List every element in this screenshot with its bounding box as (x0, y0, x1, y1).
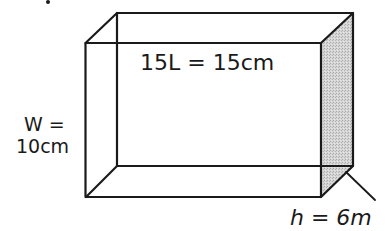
height-label: h = 6m (290, 205, 372, 230)
edge-bottom-left (86, 166, 117, 197)
edge-top-left (86, 13, 118, 43)
stray-mark (46, 0, 50, 4)
height-leader-line (346, 172, 375, 200)
back-face (117, 13, 353, 166)
width-label-line2: 10cm (16, 135, 69, 157)
prism-diagram: 15L = 15cm W = 10cm h = 6m (0, 0, 389, 231)
prism-drawing: 15L = 15cm W = 10cm h = 6m (0, 0, 389, 231)
length-label: 15L = 15cm (140, 50, 274, 75)
width-label-line1: W = (24, 113, 65, 135)
